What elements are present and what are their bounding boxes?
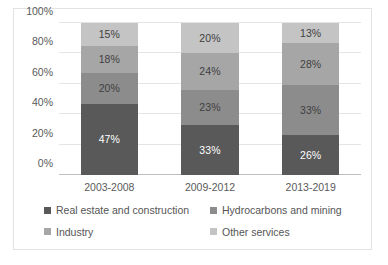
y-axis-tick-label: 0% — [38, 157, 53, 169]
bar-segment-value-label: 23% — [199, 102, 220, 113]
bar-segment[interactable]: 20% — [181, 23, 238, 53]
bar-segment[interactable]: 28% — [282, 43, 339, 86]
legend-swatch-icon — [44, 228, 51, 235]
y-axis-tick-label: 80% — [32, 35, 53, 47]
y-axis-tick-label: 60% — [32, 66, 53, 78]
bar-segment[interactable]: 15% — [81, 23, 138, 46]
bar-segment[interactable]: 20% — [81, 73, 138, 103]
bar-segment[interactable]: 18% — [81, 46, 138, 73]
bar-segment-value-label: 20% — [199, 33, 220, 44]
bar-segment-value-label: 47% — [99, 134, 120, 145]
bar-segment-value-label: 13% — [300, 28, 321, 39]
bar-segment-value-label: 24% — [199, 66, 220, 77]
bar-segment[interactable]: 13% — [282, 23, 339, 43]
bar-segment-value-label: 18% — [99, 54, 120, 65]
bar-segment[interactable]: 24% — [181, 53, 238, 89]
bar-segment[interactable]: 23% — [181, 90, 238, 125]
bar-segment[interactable]: 26% — [282, 135, 339, 175]
bar-segment[interactable]: 33% — [282, 85, 339, 135]
bar-group[interactable]: 47%20%18%15%2003-2008 — [81, 23, 138, 175]
legend-item-label: Real estate and construction — [56, 205, 189, 216]
bar-segment-value-label: 26% — [300, 150, 321, 161]
stacked-bar[interactable]: 26%33%28%13% — [282, 23, 339, 175]
x-axis-category-label: 2009-2012 — [185, 181, 235, 193]
legend-item[interactable]: Real estate and construction — [44, 205, 210, 216]
bar-segment[interactable]: 47% — [81, 104, 138, 175]
legend-swatch-icon — [44, 207, 51, 214]
chart-container: 100%80%60%40%20%0% 47%20%18%15%2003-2008… — [13, 8, 372, 250]
legend-item[interactable]: Hydrocarbons and mining — [210, 205, 354, 216]
bar-group[interactable]: 26%33%28%13%2013-2019 — [282, 23, 339, 175]
x-axis-category-label: 2013-2019 — [286, 181, 336, 193]
legend-item-label: Other services — [222, 227, 290, 238]
stacked-bar[interactable]: 47%20%18%15% — [81, 23, 138, 175]
bar-segment-value-label: 28% — [300, 59, 321, 70]
y-axis-tick-label: 100% — [26, 5, 53, 17]
y-axis-tick-label: 40% — [32, 96, 53, 108]
legend-item-label: Industry — [56, 227, 93, 238]
stacked-bar[interactable]: 33%23%24%20% — [181, 23, 238, 175]
bar-segment-value-label: 33% — [300, 105, 321, 116]
legend-item[interactable]: Other services — [210, 227, 354, 238]
x-axis-category-label: 2003-2008 — [84, 181, 134, 193]
plot-area: 100%80%60%40%20%0% 47%20%18%15%2003-2008… — [59, 23, 361, 175]
bar-segment-value-label: 33% — [199, 145, 220, 156]
legend-swatch-icon — [210, 207, 217, 214]
bar-segment-value-label: 20% — [99, 83, 120, 94]
y-axis-tick-label: 20% — [32, 127, 53, 139]
legend-item-label: Hydrocarbons and mining — [222, 205, 342, 216]
legend-item[interactable]: Industry — [44, 227, 210, 238]
bar-segment[interactable]: 33% — [181, 125, 238, 175]
legend-swatch-icon — [210, 228, 217, 235]
chart-legend: Real estate and constructionHydrocarbons… — [44, 205, 354, 237]
bar-segment-value-label: 15% — [99, 29, 120, 40]
bar-group[interactable]: 33%23%24%20%2009-2012 — [181, 23, 238, 175]
